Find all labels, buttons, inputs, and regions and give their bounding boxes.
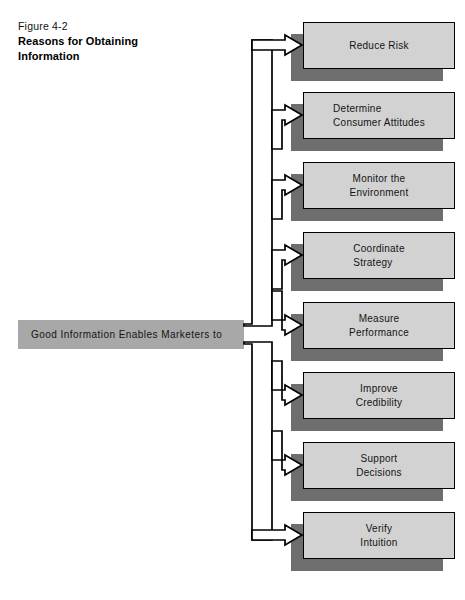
node-improve-credibility[interactable]: Improve Credibility (303, 372, 455, 419)
node-coordinate-strategy[interactable]: Coordinate Strategy (303, 232, 455, 279)
arrow-support-decisions (272, 431, 302, 475)
arrow-improve-credibility (272, 361, 302, 405)
node-consumer-attitudes[interactable]: Determine Consumer Attitudes (303, 92, 455, 139)
node-label-reduce-risk: Reduce Risk (349, 39, 408, 52)
node-reduce-risk[interactable]: Reduce Risk (303, 22, 455, 69)
node-label-measure-performance: Measure Performance (349, 312, 409, 338)
arrow-coordinate-strategy (272, 245, 302, 289)
node-label-verify-intuition: Verify Intuition (360, 522, 397, 548)
node-label-monitor-environment: Monitor the Environment (350, 172, 409, 198)
figure-canvas: Figure 4-2 Reasons for Obtaining Informa… (0, 0, 465, 600)
node-label-consumer-attitudes: Determine Consumer Attitudes (333, 102, 425, 128)
node-monitor-environment[interactable]: Monitor the Environment (303, 162, 455, 209)
node-support-decisions[interactable]: Support Decisions (303, 442, 455, 489)
arrow-measure-performance (272, 291, 302, 335)
node-measure-performance[interactable]: Measure Performance (303, 302, 455, 349)
node-label-support-decisions: Support Decisions (356, 452, 402, 478)
node-verify-intuition[interactable]: Verify Intuition (303, 512, 455, 559)
trunk-upper-outer (244, 40, 272, 326)
connector-arrow-layer (0, 0, 465, 600)
trunk-lower-outer (244, 342, 272, 540)
node-label-coordinate-strategy: Coordinate Strategy (353, 242, 404, 268)
arrow-consumer-attitudes (272, 105, 302, 149)
arrow-monitor-environment (272, 175, 302, 219)
node-label-improve-credibility: Improve Credibility (356, 382, 403, 408)
